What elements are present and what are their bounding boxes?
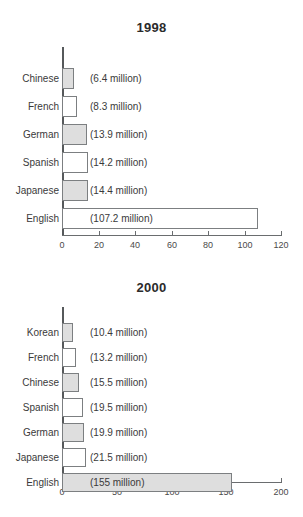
category-label: German xyxy=(23,130,59,140)
value-label: (155 million) xyxy=(90,478,144,488)
x-axis-tick-label: 120 xyxy=(273,240,288,250)
bar xyxy=(62,68,74,89)
value-label: (19.5 million) xyxy=(90,403,147,413)
x-axis-tick-label: 60 xyxy=(167,240,177,250)
category-label: Chinese xyxy=(22,74,59,84)
chart-title-1998: 1998 xyxy=(0,20,303,35)
value-label: (14.2 million) xyxy=(90,158,147,168)
bar xyxy=(62,423,84,442)
bar-row: Spanish(19.5 million) xyxy=(0,398,303,423)
category-label: German xyxy=(23,428,59,438)
bar-row: Japanese(14.4 million) xyxy=(0,180,303,208)
category-label: French xyxy=(28,102,59,112)
bar xyxy=(62,448,86,467)
category-label: Spanish xyxy=(23,158,59,168)
x-axis-tick-label: 40 xyxy=(130,240,140,250)
category-label: English xyxy=(26,214,59,224)
languages-online-bar-charts: 1998 020406080100120Chinese(6.4 million)… xyxy=(0,0,303,517)
x-axis-tick-label: 0 xyxy=(59,240,64,250)
bar xyxy=(62,96,77,117)
bar-row: Japanese(21.5 million) xyxy=(0,448,303,473)
bar-row: Spanish(14.2 million) xyxy=(0,152,303,180)
bar xyxy=(62,348,76,367)
bar-row: German(19.9 million) xyxy=(0,423,303,448)
bar-row: Chinese(6.4 million) xyxy=(0,68,303,96)
chart-title-2000: 2000 xyxy=(0,280,303,295)
bar-row: French(8.3 million) xyxy=(0,96,303,124)
category-label: Japanese xyxy=(16,453,59,463)
chart-1998: 1998 020406080100120Chinese(6.4 million)… xyxy=(0,0,303,260)
bar xyxy=(62,473,232,492)
value-label: (19.9 million) xyxy=(90,428,147,438)
value-label: (6.4 million) xyxy=(90,74,142,84)
category-label: French xyxy=(28,353,59,363)
x-axis-tick-label: 20 xyxy=(94,240,104,250)
category-label: Korean xyxy=(27,328,59,338)
x-axis-tick-label: 100 xyxy=(237,240,252,250)
bar xyxy=(62,398,83,417)
value-label: (13.2 million) xyxy=(90,353,147,363)
bar-row: English(155 million) xyxy=(0,473,303,498)
bar-row: Chinese(15.5 million) xyxy=(0,373,303,398)
bar xyxy=(62,323,73,342)
bar-row: Korean(10.4 million) xyxy=(0,323,303,348)
category-label: Chinese xyxy=(22,378,59,388)
bar xyxy=(62,124,87,145)
value-label: (10.4 million) xyxy=(90,328,147,338)
x-axis-tick-label: 80 xyxy=(203,240,213,250)
category-label: English xyxy=(26,478,59,488)
value-label: (107.2 million) xyxy=(90,214,153,224)
value-label: (15.5 million) xyxy=(90,378,147,388)
bar xyxy=(62,152,88,173)
value-label: (13.9 million) xyxy=(90,130,147,140)
value-label: (14.4 million) xyxy=(90,186,147,196)
category-label: Spanish xyxy=(23,403,59,413)
bar xyxy=(62,373,79,392)
bar-row: French(13.2 million) xyxy=(0,348,303,373)
category-label: Japanese xyxy=(16,186,59,196)
value-label: (8.3 million) xyxy=(90,102,142,112)
value-label: (21.5 million) xyxy=(90,453,147,463)
chart-2000: 2000 050100150200Korean(10.4 million)Fre… xyxy=(0,260,303,517)
bar-row: English(107.2 million) xyxy=(0,208,303,236)
bar-row: German(13.9 million) xyxy=(0,124,303,152)
bar xyxy=(62,180,88,201)
